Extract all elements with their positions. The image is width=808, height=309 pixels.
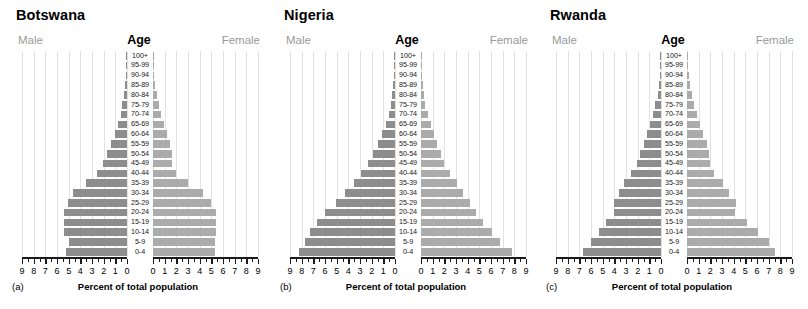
x-tick-label: 2 [635,266,640,276]
axis-tick-major [699,259,700,264]
axis-tick-minor [509,259,510,262]
x-axis-title: Percent of total population [276,281,536,292]
age-group-label: 75-79 [22,100,258,110]
x-tick-label: 8 [299,266,304,276]
axis-tick-minor [450,259,451,262]
x-tick-label: 7 [577,266,582,276]
axis-tick-minor [182,259,183,262]
pyramid-row: 30-34 [556,188,792,198]
age-group-label: 90-94 [22,70,258,80]
age-group-label: 20-24 [556,207,792,217]
x-tick-label: 9 [789,266,794,276]
x-tick-label: 6 [754,266,759,276]
x-tick-label: 7 [500,266,505,276]
x-tick-label: 5 [600,266,605,276]
axis-tick-minor [206,259,207,262]
age-group-label: 80-84 [556,90,792,100]
axis-tick-major [200,259,201,264]
axis-tick-major [780,259,781,264]
age-group-label: 75-79 [290,100,526,110]
axis-tick-major [337,259,338,264]
age-group-label: 10-14 [290,227,526,237]
axis-tick-major [710,259,711,264]
age-group-label: 45-49 [290,158,526,168]
x-tick-label: 8 [244,266,249,276]
age-group-label: 15-19 [290,217,526,227]
x-tick-label: 3 [357,266,362,276]
x-tick-label: 5 [477,266,482,276]
age-group-label: 75-79 [556,100,792,110]
x-tick-label: 4 [346,266,351,276]
axis-tick-minor [620,259,621,262]
axis-tick-major [176,259,177,264]
x-tick-label: 2 [708,266,713,276]
x-tick-label: 9 [523,266,528,276]
age-group-label: 40-44 [290,168,526,178]
axis-tick-minor [331,259,332,262]
age-group-label: 25-29 [556,198,792,208]
age-group-label: 15-19 [22,217,258,227]
pyramid-row: 5-9 [556,237,792,247]
age-group-label: 100+ [22,51,258,61]
x-tick-label: 1 [696,266,701,276]
axis-tick-major [491,259,492,264]
axis-tick-major [757,259,758,264]
pyramid-row: 55-59 [556,139,792,149]
axis-tick-minor [217,259,218,262]
x-tick-label: 4 [465,266,470,276]
axis-tick-minor [439,259,440,262]
age-group-label: 55-59 [290,139,526,149]
age-group-label: 95-99 [556,60,792,70]
axis-tick-major [792,259,793,264]
age-group-label: 35-39 [290,178,526,188]
x-tick-label: 9 [553,266,558,276]
axis-tick-minor [366,259,367,262]
axis-tick-major [661,259,662,264]
axis-tick-minor [497,259,498,262]
axis-tick-major [80,259,81,264]
age-column-header: Age [8,33,268,47]
axis-tick-major [444,259,445,264]
x-tick-label: 9 [287,266,292,276]
age-group-label: 45-49 [22,158,258,168]
axis-tick-minor [693,259,694,262]
axis-tick-major [568,259,569,264]
axis-tick-minor [655,259,656,262]
age-column-header: Age [276,33,536,47]
age-group-label: 30-34 [290,188,526,198]
axis-tick-minor [751,259,752,262]
axis-tick-minor [296,259,297,262]
x-tick-label: 6 [54,266,59,276]
axis-tick-minor [121,259,122,262]
x-axis [22,257,258,266]
pyramid-row: 55-59 [22,139,258,149]
x-tick-label: 5 [209,266,214,276]
panel-title: Botswana [16,7,85,23]
axis-tick-major [92,259,93,264]
x-axis [290,257,526,266]
axis-tick-major [395,259,396,264]
population-pyramid-figure: BotswanaMaleFemaleAge100+95-9990-9485-89… [0,0,808,309]
axis-tick-minor [378,259,379,262]
axis-tick-major [603,259,604,264]
axis-tick-major [591,259,592,264]
axis-tick-minor [229,259,230,262]
axis-tick-major [638,259,639,264]
axis-tick-major [57,259,58,264]
pyramid-row: 80-84 [556,90,792,100]
x-tick-label: 1 [113,266,118,276]
x-axis-right [153,257,258,266]
age-group-label: 80-84 [22,90,258,100]
axis-tick-major [687,259,688,264]
pyramid-row: 80-84 [22,90,258,100]
axis-tick-minor [308,259,309,262]
axis-tick-minor [241,259,242,262]
x-tick-label: 0 [658,266,663,276]
axis-tick-minor [597,259,598,262]
x-tick-label: 1 [162,266,167,276]
axis-tick-minor [609,259,610,262]
axis-tick-minor [585,259,586,262]
axis-tick-major [302,259,303,264]
axis-tick-major [34,259,35,264]
x-axis-left [290,257,395,266]
